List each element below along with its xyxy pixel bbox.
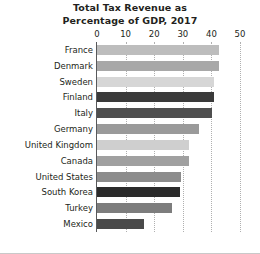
chart-title-line-1: Total Tax Revenue as bbox=[0, 2, 260, 15]
y-axis-category-labels: FranceDenmarkSwedenFinlandItalyGermanyUn… bbox=[0, 42, 93, 232]
chart-title-line-2: Percentage of GDP, 2017 bbox=[0, 15, 260, 28]
gridline-50 bbox=[240, 42, 242, 232]
bar-italy[interactable] bbox=[97, 108, 212, 118]
x-tick-label-40: 40 bbox=[206, 29, 217, 39]
y-label-turkey: Turkey bbox=[0, 202, 93, 214]
y-label-denmark: Denmark bbox=[0, 60, 93, 72]
x-tick-label-10: 10 bbox=[120, 29, 131, 39]
bar-united-states[interactable] bbox=[97, 172, 181, 182]
plot-area bbox=[97, 42, 240, 232]
y-label-south-korea: South Korea bbox=[0, 186, 93, 198]
bar-united-kingdom[interactable] bbox=[97, 140, 189, 150]
y-label-united-states: United States bbox=[0, 171, 93, 183]
bar-mexico[interactable] bbox=[97, 219, 144, 229]
bar-finland[interactable] bbox=[97, 92, 214, 102]
y-label-mexico: Mexico bbox=[0, 218, 93, 230]
y-label-sweden: Sweden bbox=[0, 76, 93, 88]
y-label-france: France bbox=[0, 44, 93, 56]
bar-chart: Total Tax Revenue as Percentage of GDP, … bbox=[0, 0, 260, 254]
y-label-united-kingdom: United Kingdom bbox=[0, 139, 93, 151]
y-label-germany: Germany bbox=[0, 123, 93, 135]
x-tick-label-30: 30 bbox=[177, 29, 188, 39]
chart-title: Total Tax Revenue as Percentage of GDP, … bbox=[0, 2, 260, 27]
bar-sweden[interactable] bbox=[97, 77, 214, 87]
x-tick-label-20: 20 bbox=[149, 29, 160, 39]
bar-germany[interactable] bbox=[97, 124, 199, 134]
bar-denmark[interactable] bbox=[97, 61, 219, 71]
bar-france[interactable] bbox=[97, 45, 219, 55]
bar-turkey[interactable] bbox=[97, 203, 172, 213]
bar-canada[interactable] bbox=[97, 156, 189, 166]
x-axis-tick-labels: 01020304050 bbox=[97, 29, 240, 41]
y-label-italy: Italy bbox=[0, 107, 93, 119]
bar-south-korea[interactable] bbox=[97, 187, 180, 197]
x-tick-label-0: 0 bbox=[94, 29, 99, 39]
y-label-canada: Canada bbox=[0, 155, 93, 167]
x-tick-label-50: 50 bbox=[235, 29, 246, 39]
y-label-finland: Finland bbox=[0, 91, 93, 103]
